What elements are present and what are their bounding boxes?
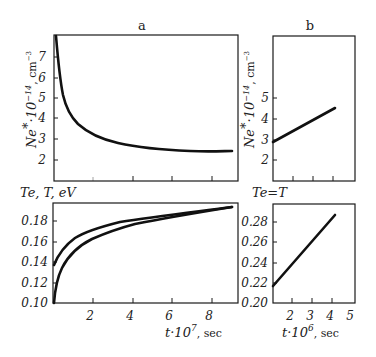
y-tick-label: 0.26 bbox=[241, 235, 268, 249]
t-curve bbox=[54, 207, 232, 303]
y-tick-label: 6 bbox=[38, 71, 46, 85]
y-tick-label: 0.28 bbox=[241, 215, 268, 229]
ne-linear-curve bbox=[273, 108, 335, 142]
svg-text:Ne*·10−14, cm−3: Ne*·10−14, cm−3 bbox=[238, 51, 257, 149]
y-tick-label: 2 bbox=[260, 153, 269, 167]
x-ticks bbox=[93, 176, 212, 181]
x-tick-label: 3 bbox=[306, 309, 314, 323]
y-tick-label: 7 bbox=[38, 50, 46, 64]
figure: a b 2 3 4 5 6 7 Ne*·10−14, bbox=[0, 0, 376, 357]
plot-frame bbox=[273, 204, 355, 303]
x-axis-label: t·106, sec bbox=[282, 323, 339, 340]
x-tick-label: 4 bbox=[125, 309, 134, 323]
y-tick-label: 0.24 bbox=[241, 256, 268, 270]
y-tick-label: 3 bbox=[38, 132, 46, 146]
x-tick-label: 5 bbox=[346, 309, 354, 323]
plot-frame bbox=[273, 36, 355, 181]
te-curve bbox=[54, 207, 232, 265]
y-tick-label: 2 bbox=[37, 153, 46, 167]
plot-b-top: 2 3 4 5 Ne*·10−14, cm−3 bbox=[238, 36, 355, 181]
y-tick-label: 0.10 bbox=[21, 296, 48, 310]
x-tick-label: 2 bbox=[85, 309, 94, 323]
y-axis-label: Ne*·10−14, cm−3 bbox=[20, 51, 39, 149]
y-tick-label: 0.22 bbox=[241, 276, 268, 290]
y-tick-label: 4 bbox=[260, 112, 269, 126]
svg-text:Ne*·10−14, cm−3: Ne*·10−14, cm−3 bbox=[20, 51, 39, 149]
y-tick-label: 0.20 bbox=[241, 296, 268, 310]
plot-b-bottom: Te=T 0.20 0.22 0.24 0.26 0.28 2 3 4 5 t·… bbox=[241, 185, 355, 340]
y-axis-label: Te=T bbox=[252, 185, 288, 200]
plot-a-top: 2 3 4 5 6 7 Ne*·10−14, cm−3 bbox=[20, 35, 238, 181]
panel-label-a: a bbox=[138, 18, 146, 33]
x-tick-label: 8 bbox=[205, 309, 213, 323]
y-tick-label: 0.12 bbox=[21, 276, 48, 290]
y-tick-label: 0.14 bbox=[21, 255, 48, 269]
y-axis-label: Te, T, eV bbox=[20, 185, 77, 200]
y-axis-label: Ne*·10−14, cm−3 bbox=[238, 51, 257, 149]
y-tick-label: 0.16 bbox=[21, 235, 48, 249]
panel-label-b: b bbox=[306, 18, 314, 33]
y-tick-label: 5 bbox=[38, 91, 46, 105]
x-axis-label: t·107, sec bbox=[165, 323, 222, 340]
plot-a-bottom: Te, T, eV 0.10 0.12 0.14 0.16 0.18 2 4 6… bbox=[20, 185, 238, 340]
x-tick-label: 4 bbox=[325, 309, 334, 323]
ne-decay-curve bbox=[56, 36, 232, 151]
x-tick-label: 2 bbox=[285, 309, 294, 323]
y-tick-label: 0.18 bbox=[21, 214, 48, 228]
y-tick-label: 5 bbox=[261, 91, 269, 105]
y-tick-label: 3 bbox=[261, 133, 269, 147]
x-tick-label: 6 bbox=[165, 309, 173, 323]
plot-frame bbox=[54, 35, 238, 181]
te-t-linear-curve bbox=[273, 215, 335, 286]
